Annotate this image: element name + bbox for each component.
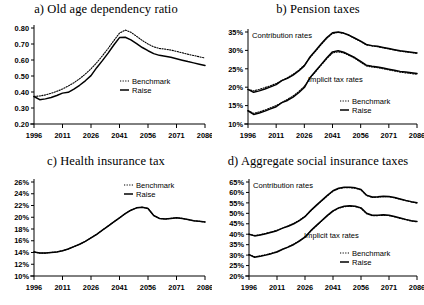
x-tick-label: 1996 xyxy=(26,131,42,140)
legend-label-benchmark: Benchmark xyxy=(352,249,391,258)
x-tick-label: 2071 xyxy=(381,131,397,140)
panel-d-title: d) Aggregate social insurance taxes xyxy=(212,154,424,169)
x-tick-label: 2041 xyxy=(111,283,127,292)
series-line-benchmark xyxy=(34,30,205,96)
series-line-raise xyxy=(34,207,205,253)
x-tick-label: 2011 xyxy=(54,131,70,140)
panel-b-title: b) Pension taxes xyxy=(212,2,424,17)
series-group-label-contribution: Contribution rates xyxy=(253,181,313,190)
y-tick-label: 35% xyxy=(228,28,243,37)
y-tick-label: 55% xyxy=(229,199,244,208)
y-tick-label: 0.60 xyxy=(15,56,29,65)
y-tick-label: 40% xyxy=(229,230,244,239)
y-tick-label: 10% xyxy=(228,120,243,129)
x-tick-label: 2056 xyxy=(140,131,156,140)
x-tick-label: 2086 xyxy=(409,283,424,292)
y-tick-label: 50% xyxy=(229,209,244,218)
legend-label-raise: Raise xyxy=(352,106,371,115)
legend-label-benchmark: Benchmark xyxy=(136,181,175,190)
y-tick-label: 15% xyxy=(228,101,243,110)
y-tick-label: 0.50 xyxy=(15,72,29,81)
legend-label-raise: Raise xyxy=(136,190,155,199)
figure-panel-grid: a) Old age dependency ratio 0.200.300.40… xyxy=(0,0,424,305)
panel-a: a) Old age dependency ratio 0.200.300.40… xyxy=(0,0,212,152)
series-group-label-implicit: Implicit tax rates xyxy=(304,231,359,240)
y-tick-label: 0.80 xyxy=(15,24,29,33)
x-tick-label: 2056 xyxy=(353,283,369,292)
y-tick-label: 30% xyxy=(229,251,244,260)
panel-b-plot: 10%15%20%25%30%35%1996201120262041205620… xyxy=(212,20,424,152)
x-tick-label: 2026 xyxy=(83,283,99,292)
x-tick-label: 2041 xyxy=(324,131,340,140)
x-tick-label: 2011 xyxy=(54,283,70,292)
panel-d: d) Aggregate social insurance taxes 20%2… xyxy=(212,152,424,304)
y-tick-label: 12% xyxy=(14,260,29,269)
x-tick-label: 1996 xyxy=(241,283,257,292)
y-tick-label: 16% xyxy=(14,236,29,245)
panel-d-plot: 20%25%30%35%40%45%50%55%60%65%1996201120… xyxy=(212,172,424,304)
y-tick-label: 45% xyxy=(229,219,244,228)
legend-label-raise: Raise xyxy=(132,86,151,95)
panel-c-title: c) Health insurance tax xyxy=(0,154,212,169)
x-tick-label: 2086 xyxy=(197,283,212,292)
panel-c: c) Health insurance tax 10%12%14%16%18%2… xyxy=(0,152,212,304)
y-tick-label: 65% xyxy=(229,178,244,187)
y-tick-label: 26% xyxy=(14,178,29,187)
legend-label-benchmark: Benchmark xyxy=(132,77,171,86)
y-tick-label: 0.20 xyxy=(15,120,29,129)
y-tick-label: 22% xyxy=(14,201,29,210)
panel-c-plot: 10%12%14%16%18%20%22%24%26%1996201120262… xyxy=(0,172,212,304)
x-tick-label: 2041 xyxy=(111,131,127,140)
panel-a-title: a) Old age dependency ratio xyxy=(0,2,212,17)
panel-a-plot: 0.200.300.400.500.600.700.80199620112026… xyxy=(0,20,212,152)
panel-a-svg: 0.200.300.400.500.600.700.80199620112026… xyxy=(0,20,212,152)
y-tick-label: 0.30 xyxy=(15,104,29,113)
x-tick-label: 2026 xyxy=(296,131,312,140)
y-tick-label: 20% xyxy=(14,213,29,222)
x-tick-label: 1996 xyxy=(26,283,42,292)
y-tick-label: 20% xyxy=(228,83,243,92)
y-tick-label: 35% xyxy=(229,240,244,249)
y-tick-label: 30% xyxy=(228,46,243,55)
legend-label-raise: Raise xyxy=(352,258,371,267)
x-tick-label: 2026 xyxy=(297,283,313,292)
x-tick-label: 2071 xyxy=(168,131,184,140)
x-tick-label: 2056 xyxy=(352,131,368,140)
y-tick-label: 25% xyxy=(229,261,244,270)
x-tick-label: 2011 xyxy=(269,283,285,292)
x-tick-label: 2071 xyxy=(168,283,184,292)
x-tick-label: 2086 xyxy=(197,131,212,140)
legend-label-benchmark: Benchmark xyxy=(352,97,391,106)
y-tick-label: 25% xyxy=(228,65,243,74)
x-tick-label: 2071 xyxy=(381,283,397,292)
x-tick-label: 1996 xyxy=(240,131,256,140)
x-tick-label: 2026 xyxy=(83,131,99,140)
y-tick-label: 10% xyxy=(14,272,29,281)
x-tick-label: 2041 xyxy=(325,283,341,292)
series-group-label-contribution: Contribution rates xyxy=(252,31,312,40)
y-tick-label: 24% xyxy=(14,189,29,198)
x-tick-label: 2086 xyxy=(409,131,424,140)
y-tick-label: 20% xyxy=(229,272,244,281)
y-tick-label: 0.40 xyxy=(15,88,29,97)
panel-c-svg: 10%12%14%16%18%20%22%24%26%1996201120262… xyxy=(0,172,212,304)
y-tick-label: 0.70 xyxy=(15,40,29,49)
panel-b-svg: 10%15%20%25%30%35%1996201120262041205620… xyxy=(212,20,424,152)
panel-d-svg: 20%25%30%35%40%45%50%55%60%65%1996201120… xyxy=(212,172,424,304)
series-group-label-implicit: Implicit tax rates xyxy=(308,75,363,84)
y-tick-label: 18% xyxy=(14,225,29,234)
panel-b: b) Pension taxes 10%15%20%25%30%35%19962… xyxy=(212,0,424,152)
y-tick-label: 14% xyxy=(14,248,29,257)
series-line-benchmark xyxy=(34,207,205,253)
y-tick-label: 60% xyxy=(229,188,244,197)
x-tick-label: 2011 xyxy=(268,131,284,140)
x-tick-label: 2056 xyxy=(140,283,156,292)
